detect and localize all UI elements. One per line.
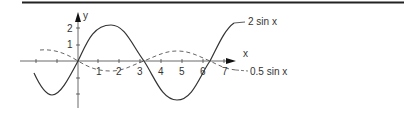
x-tick-label: 7 xyxy=(222,66,228,77)
curve-2-sin-x-label: 2 sin x xyxy=(248,16,277,27)
x-tick-label: 2 xyxy=(116,66,122,77)
x-axis-label: x xyxy=(243,48,248,59)
x-tick-label: 1 xyxy=(96,66,102,77)
curve-0.5-sin-x-leader xyxy=(236,70,248,71)
x-tick-label: 4 xyxy=(158,66,164,77)
x-tick-label: 5 xyxy=(179,66,185,77)
curve-2-sin-x-leader xyxy=(234,22,245,23)
curve-0.5-sin-x-label: 0.5 sin x xyxy=(250,66,287,77)
x-axis-arrow-icon xyxy=(226,58,236,64)
y-axis-arrow-icon xyxy=(75,12,81,22)
y-tick-label: 2 xyxy=(67,23,73,34)
y-tick-label: 1 xyxy=(67,39,73,50)
x-tick-label: 6 xyxy=(200,66,206,77)
x-tick-label: 3 xyxy=(137,66,143,77)
y-axis-label: y xyxy=(83,10,88,21)
curve-2-sin-x xyxy=(34,23,234,100)
sine-chart: 1 2 3 4 5 6 7 1 2 y x 2 sin x 0.5 sin x xyxy=(0,0,404,119)
